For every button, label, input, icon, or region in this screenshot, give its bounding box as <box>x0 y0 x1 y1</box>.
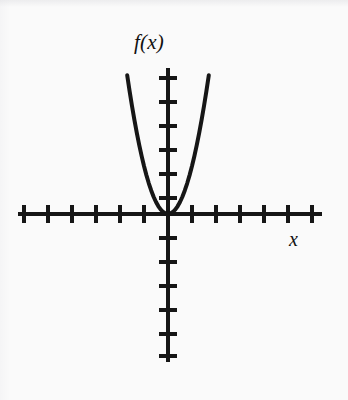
y-axis-label: f(x) <box>134 30 164 55</box>
parabola-plot <box>0 0 348 400</box>
x-axis-label: x <box>289 228 298 251</box>
figure-canvas: f(x) x <box>0 0 348 400</box>
